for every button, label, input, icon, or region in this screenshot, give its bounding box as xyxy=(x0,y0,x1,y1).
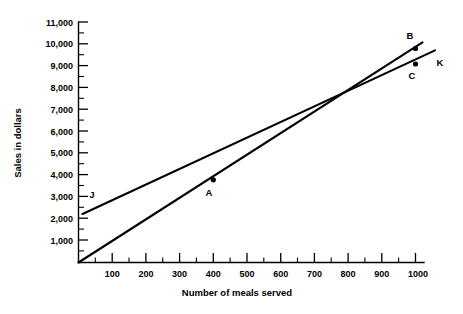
x-axis-title: Number of meals served xyxy=(182,287,293,298)
line-chart: 11,000 10,000 9,000 8,000 7,000 6,000 5,… xyxy=(0,0,463,314)
label-k: K xyxy=(437,57,444,68)
y-tick-label: 10,000 xyxy=(45,39,73,49)
data-point-b xyxy=(413,46,418,51)
x-tick-label: 1000 xyxy=(408,269,428,279)
y-tick-label: 4,000 xyxy=(50,170,73,180)
label-c: C xyxy=(409,70,416,81)
chart-container: 11,000 10,000 9,000 8,000 7,000 6,000 5,… xyxy=(0,0,463,314)
y-tick-label: 9,000 xyxy=(50,61,73,71)
data-point-a xyxy=(211,177,216,182)
y-tick-label: 11,000 xyxy=(46,18,73,28)
y-tick-label: 2,000 xyxy=(50,214,73,224)
label-a: A xyxy=(206,187,213,198)
x-tick-label: 300 xyxy=(172,269,187,279)
label-b: B xyxy=(407,30,414,41)
x-tick-label: 600 xyxy=(273,269,288,279)
y-tick-label: 5,000 xyxy=(50,148,73,158)
x-tick-label: 100 xyxy=(105,269,120,279)
x-tick-label: 200 xyxy=(138,269,153,279)
label-j: J xyxy=(89,189,94,200)
y-axis-title: Sales in dollars xyxy=(12,108,23,178)
x-tick-label: 700 xyxy=(307,269,322,279)
data-point-c xyxy=(413,61,418,66)
y-tick-label: 8,000 xyxy=(50,83,73,93)
x-tick-label: 400 xyxy=(206,269,221,279)
y-tick-label: 1,000 xyxy=(50,236,73,246)
x-tick-label: 500 xyxy=(239,269,254,279)
x-tick-label: 800 xyxy=(341,269,356,279)
x-tick-label: 900 xyxy=(374,269,389,279)
y-tick-label: 6,000 xyxy=(50,127,73,137)
y-tick-label: 3,000 xyxy=(50,192,73,202)
y-tick-label: 7,000 xyxy=(50,105,73,115)
